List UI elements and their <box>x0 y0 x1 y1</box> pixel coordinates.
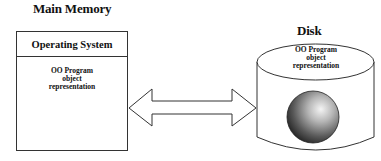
disk-title: Disk <box>297 23 322 39</box>
operating-system-header: Operating System <box>17 32 127 57</box>
object-label-line: representation <box>17 83 127 91</box>
double-arrow-icon <box>129 89 256 126</box>
main-memory-box: Operating System OO Program object repre… <box>16 31 128 151</box>
memory-object-label: OO Program object representation <box>17 67 127 91</box>
disk-object-sphere <box>287 91 339 143</box>
object-label-line: representation <box>257 62 375 70</box>
disk-object-label: OO Program object representation <box>257 46 375 70</box>
main-memory-title: Main Memory <box>33 1 111 17</box>
